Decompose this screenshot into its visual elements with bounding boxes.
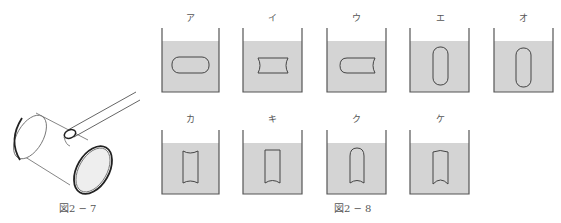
container-ki: [243, 130, 302, 194]
label-e: エ: [420, 11, 460, 24]
label-i: イ: [252, 11, 292, 24]
label-ke: ケ: [420, 112, 460, 125]
container-ku: [327, 130, 386, 194]
label-ku: ク: [336, 112, 376, 125]
container-i: [243, 28, 302, 92]
label-o: オ: [503, 11, 543, 24]
container-e: [410, 28, 469, 92]
container-a: [162, 28, 219, 92]
label-ki: キ: [252, 112, 292, 125]
label-a: ア: [170, 11, 210, 24]
container-ka: [162, 130, 219, 194]
label-u: ウ: [336, 11, 376, 24]
container-o: [494, 28, 553, 92]
container-u: [327, 28, 386, 92]
container-ke: [410, 130, 469, 194]
label-ka: カ: [170, 112, 210, 125]
figure-2-8-caption: 図2 − 8: [334, 200, 371, 215]
